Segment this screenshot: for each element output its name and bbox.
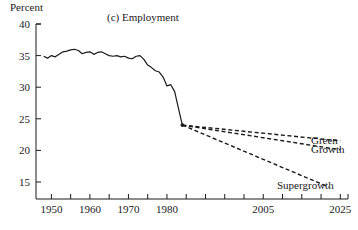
employment-chart: Percent (c) Employment 403530252015 1950… [0, 0, 358, 230]
y-axis-tick-label: 15 [6, 177, 30, 188]
y-axis-tick-label: 20 [6, 145, 30, 156]
y-axis-tick-label: 30 [6, 82, 30, 93]
series-line-supergrowth [182, 125, 328, 187]
y-axis-tick-label: 35 [6, 51, 30, 62]
x-axis-tick-label: 1980 [147, 204, 187, 215]
series-group [44, 49, 341, 187]
x-axis-tick-label: 1970 [108, 204, 148, 215]
x-axis-tick-label: 1950 [31, 204, 71, 215]
x-axis-tick-label: 1960 [70, 204, 110, 215]
y-axis-tick-label: 40 [6, 19, 30, 30]
axes-group [36, 24, 348, 199]
x-axis-tick-label: 2005 [243, 204, 283, 215]
chart-title: (c) Employment [107, 12, 179, 23]
series-label-growth: Growth [311, 144, 345, 155]
y-axis-tick-label: 25 [6, 114, 30, 125]
series-line-historical [44, 49, 183, 125]
x-axis-tick-label: 2025 [320, 204, 358, 215]
branch-point-marker [180, 123, 184, 127]
series-label-supergrowth: Supergrowth [277, 180, 334, 191]
y-axis-unit-label: Percent [10, 2, 43, 13]
chart-canvas [0, 0, 358, 230]
